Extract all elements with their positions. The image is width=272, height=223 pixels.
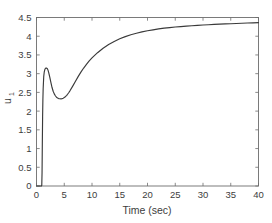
y-tick-label: 3.5: [18, 49, 31, 60]
x-tick-label: 0: [34, 189, 39, 200]
y-tick-label: 4: [26, 31, 31, 42]
y-axis-label-base: u: [1, 98, 13, 104]
y-tick-label: 1: [26, 143, 31, 154]
x-tick-label: 25: [170, 189, 181, 200]
y-tick-label: 3: [26, 68, 31, 79]
y-tick-label: 4.5: [18, 12, 31, 23]
figure-container: 00.511.522.533.544.5 0510152025303540 Ti…: [0, 0, 272, 223]
y-axis-label-subscript: 1: [8, 92, 15, 96]
x-tick-label: 40: [253, 189, 264, 200]
x-tick-label: 35: [225, 189, 236, 200]
y-tick-label: 0: [26, 180, 31, 191]
x-axis-label: Time (sec): [122, 204, 171, 216]
x-tick-label: 15: [114, 189, 125, 200]
y-tick-label: 2.5: [18, 87, 31, 98]
x-tick-label: 5: [62, 189, 67, 200]
y-tick-label: 1.5: [18, 124, 31, 135]
x-tick-label: 10: [87, 189, 98, 200]
x-tick-label: 20: [142, 189, 153, 200]
x-tick-label: 30: [198, 189, 209, 200]
y-tick-label: 0.5: [18, 162, 31, 173]
y-tick-label: 2: [26, 106, 31, 117]
line-chart: 00.511.522.533.544.5 0510152025303540 Ti…: [0, 0, 272, 223]
